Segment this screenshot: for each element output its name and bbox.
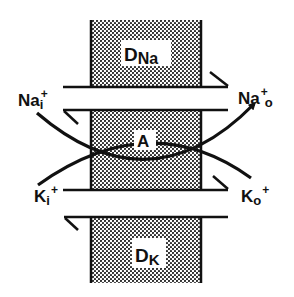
label-k-out: Ko+ (241, 183, 269, 208)
label-a: A (137, 132, 149, 151)
label-na-in: Na+i (18, 87, 48, 112)
label-na-out: Na+o (238, 85, 273, 110)
label-k-in: Ki+ (34, 183, 58, 208)
ion-channel-diagram: DNa A DK Na+i Na+o Ki+ Ko+ (0, 0, 294, 297)
